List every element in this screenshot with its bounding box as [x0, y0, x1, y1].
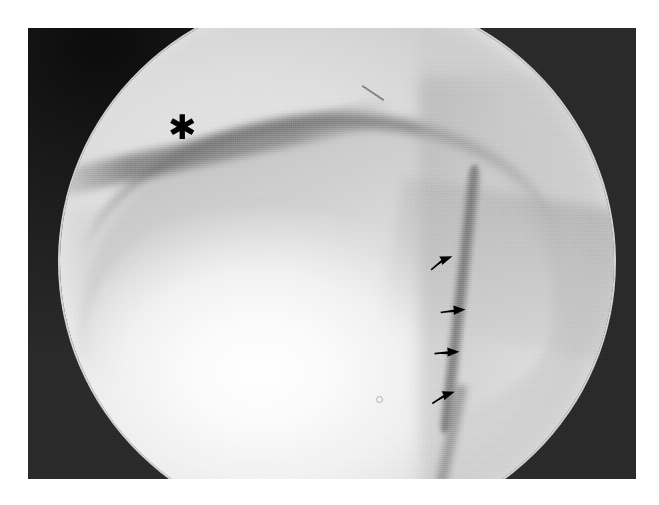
film-dust-speck [376, 396, 383, 403]
knee-radiograph-image: ✱ [28, 28, 636, 479]
arrow-marker-2 [440, 302, 467, 318]
arrow-marker-3 [434, 345, 460, 360]
fluoroscopy-bright-field [60, 28, 614, 479]
asterisk-marker: ✱ [168, 110, 197, 144]
page-root: ✱ [0, 0, 659, 505]
